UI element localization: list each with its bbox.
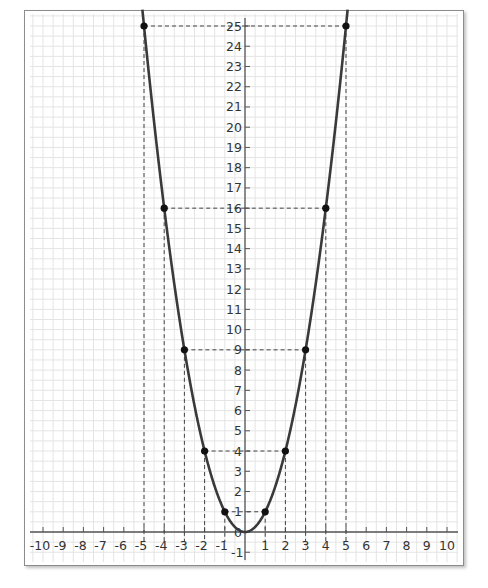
y-tick-label: 9 [234,342,242,357]
x-tick-label: 2 [281,538,289,553]
x-tick-label: 6 [362,538,370,553]
y-tick-label: 13 [226,261,242,276]
y-tick-label: 18 [226,160,242,175]
x-tick-label: 5 [342,538,350,553]
data-point [221,508,228,515]
x-tick-label: -9 [54,538,67,553]
y-tick-label: 21 [226,99,242,114]
y-tick-label: 8 [234,363,242,378]
y-tick-label: 15 [226,221,242,236]
x-tick-label: 4 [322,538,330,553]
data-point [181,346,188,353]
data-point [282,447,289,454]
x-tick-label: -1 [216,538,228,553]
y-tick-label: 7 [234,383,242,398]
y-tick-label: 23 [226,59,242,74]
y-tick-label: 6 [234,403,242,418]
y-axis-tick-labels: -101234567891011121314151617181920212223… [226,19,243,560]
data-point [201,447,208,454]
y-tick-label: -1 [231,545,243,560]
x-tick-label: -7 [94,538,106,553]
data-point [161,205,168,212]
y-tick-label: 17 [226,180,242,195]
x-tick-label: -2 [195,538,207,553]
y-tick-label: 4 [234,444,242,459]
x-tick-label: 9 [423,538,431,553]
x-tick-label: 1 [261,538,269,553]
y-tick-label: 16 [226,201,242,216]
x-tick-label: -6 [115,538,128,553]
parabola-chart: -10-9-8-7-6-5-4-3-2-112345678910 -101234… [0,0,488,588]
x-tick-label: 3 [302,538,310,553]
y-tick-label: 19 [226,140,242,155]
data-point [140,22,147,29]
x-tick-label: 10 [439,538,455,553]
grid-lines [30,14,458,562]
x-tick-label: -4 [155,538,168,553]
data-point [302,346,309,353]
y-tick-label: 1 [234,504,242,519]
y-tick-label: 5 [234,423,242,438]
data-point [322,205,329,212]
x-tick-label: -8 [74,538,87,553]
x-tick-label: 7 [382,538,390,553]
x-tick-label: -10 [30,538,50,553]
y-tick-label: 0 [234,525,242,540]
y-tick-label: 2 [234,484,242,499]
data-point [342,22,349,29]
y-tick-label: 3 [234,464,242,479]
y-tick-label: 20 [226,120,242,135]
y-tick-label: 25 [226,19,242,34]
y-tick-label: 22 [226,79,242,94]
data-point [262,508,269,515]
y-tick-label: 11 [226,302,242,317]
y-tick-label: 12 [226,282,242,297]
x-tick-label: -5 [135,538,147,553]
x-tick-label: -3 [175,538,187,553]
y-tick-label: 14 [226,241,242,256]
y-tick-label: 24 [226,39,242,54]
y-tick-label: 10 [226,322,242,337]
x-tick-label: 8 [403,538,411,553]
